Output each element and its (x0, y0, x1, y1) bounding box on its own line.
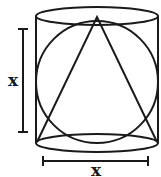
height-dimension: x (8, 29, 28, 132)
inscribed-cone-triangle (37, 17, 157, 142)
diameter-label: x (91, 160, 102, 177)
cylinder-sphere-cone-diagram: x x (0, 0, 161, 177)
diameter-dimension: x (43, 156, 148, 177)
inscribed-sphere-circle (36, 21, 158, 143)
diagram-canvas: x x (0, 0, 161, 177)
height-label: x (8, 70, 19, 90)
